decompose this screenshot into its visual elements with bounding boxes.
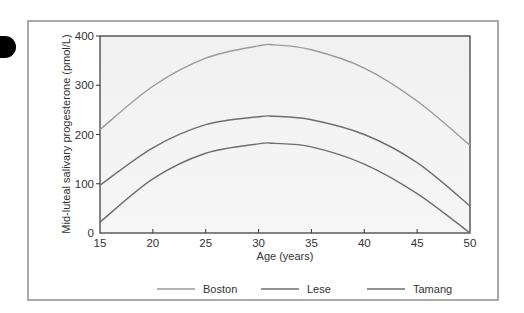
x-axis-title: Age (years) [257, 250, 314, 262]
x-tick-label: 30 [252, 237, 265, 249]
x-tick-label: 35 [305, 237, 318, 249]
x-tick-label: 20 [146, 237, 159, 249]
legend-label-lese: Lese [307, 283, 331, 295]
y-tick-label: 300 [75, 79, 94, 91]
legend-label-boston: Boston [203, 283, 237, 295]
plot-area [100, 36, 470, 233]
x-tick-label: 45 [411, 237, 424, 249]
x-tick-label: 50 [464, 237, 477, 249]
legend-label-tamang: Tamang [413, 283, 452, 295]
y-tick-label: 100 [75, 178, 94, 190]
x-tick-label: 25 [199, 237, 212, 249]
x-tick-label: 15 [94, 237, 107, 249]
y-tick-label: 200 [75, 129, 94, 141]
x-tick-label: 40 [358, 237, 371, 249]
y-axis: 0100200300400 [75, 30, 100, 239]
legend: BostonLeseTamang [157, 283, 452, 295]
y-tick-label: 400 [75, 30, 94, 42]
y-axis-title: Mid-luteal salivary progesterone (pmol/L… [60, 34, 72, 233]
line-chart: 0100200300400 1520253035404550 Age (year… [0, 0, 524, 313]
